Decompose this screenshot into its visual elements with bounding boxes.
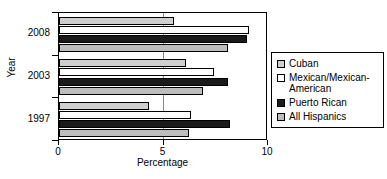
legend-item-mexican: Mexican/Mexican-American [277,72,383,94]
x-tick-label-5: 5 [148,146,178,157]
bar-cuban-2008 [59,17,174,25]
y-tick-label-2003: 2003 [0,70,50,81]
bar-group-2003 [59,59,266,95]
legend-swatch-mexican-icon [277,74,285,82]
legend-label-allhispanics: All Hispanics [289,111,346,122]
legend-swatch-allhispanics-icon [277,113,285,121]
bar-allhispanics-1997 [59,129,189,137]
bar-group-1997 [59,102,266,138]
x-tick-0 [58,140,59,145]
plot-area [58,12,267,140]
bar-mexican-2003 [59,68,214,76]
bar-group-2008 [59,17,266,53]
chart-legend: CubanMexican/Mexican-AmericanPuerto Rica… [271,52,384,128]
bar-cuban-2003 [59,59,186,67]
y-tick-label-2008: 2008 [0,27,50,38]
bar-puertorican-1997 [59,120,230,128]
bar-mexican-2008 [59,26,249,34]
y-axis-title: Year [6,38,17,98]
legend-swatch-puertorican-icon [277,99,285,107]
bar-allhispanics-2003 [59,87,203,95]
bar-puertorican-2008 [59,35,247,43]
x-tick-5 [163,140,164,145]
bar-puertorican-2003 [59,78,228,86]
y-tick-2008 [52,55,59,56]
y-tick-label-1997: 1997 [0,113,50,124]
bar-allhispanics-2008 [59,44,228,52]
bar-mexican-1997 [59,111,191,119]
y-tick-2003 [52,97,59,98]
legend-item-cuban: Cuban [277,58,383,69]
x-tick-label-0: 0 [43,146,73,157]
x-axis-title: Percentage [58,157,267,168]
legend-item-allhispanics: All Hispanics [277,111,383,122]
bar-chart-figure: Year 200820031997 0510 Percentage CubanM… [0,0,387,179]
legend-swatch-cuban-icon [277,60,285,68]
x-tick-label-10: 10 [252,146,282,157]
x-tick-10 [267,140,268,145]
legend-label-cuban: Cuban [289,58,318,69]
legend-item-puertorican: Puerto Rican [277,97,383,108]
bar-cuban-1997 [59,102,149,110]
y-tick-top [52,12,59,13]
legend-label-puertorican: Puerto Rican [289,97,347,108]
legend-label-mexican: Mexican/Mexican-American [289,72,383,94]
